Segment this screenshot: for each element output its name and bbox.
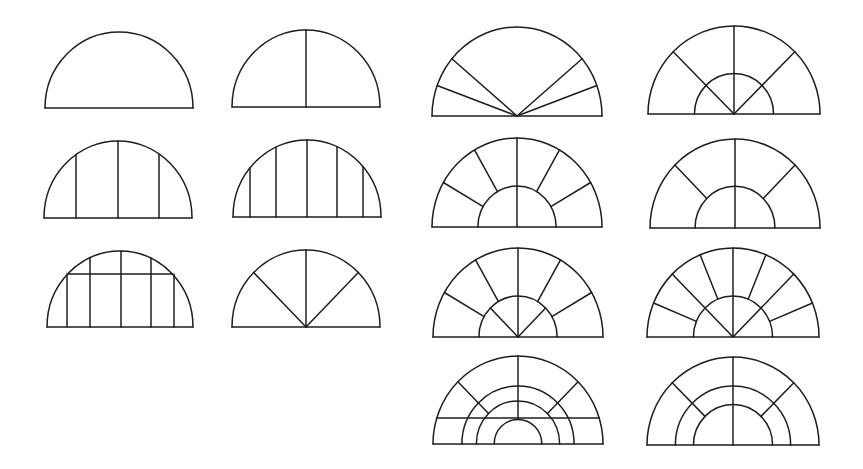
window-patterns-diagram: Semicircular window mullion patterns	[0, 0, 863, 469]
